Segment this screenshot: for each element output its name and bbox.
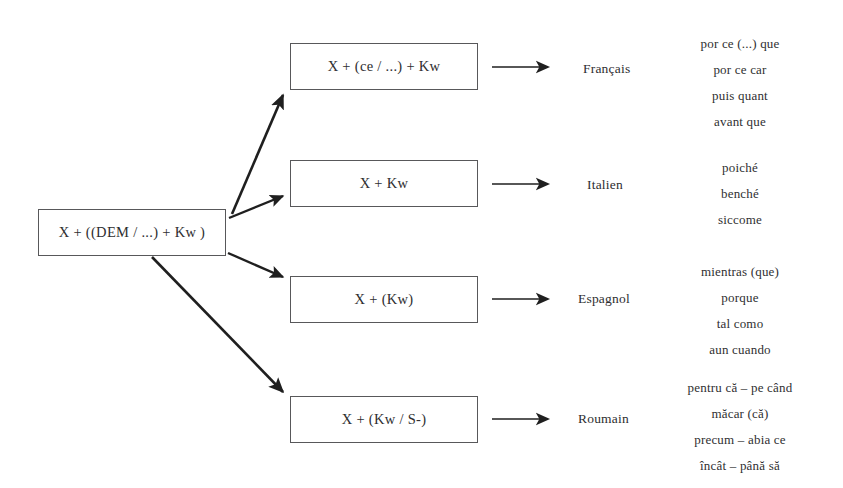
language-label-italien: Italien [587,177,623,193]
example-item: porque [640,285,840,311]
source-node-label: X + ((DEM / ...) + Kw ) [59,224,205,241]
branch-node-roumain: X + (Kw / S-) [290,396,478,443]
example-item: por ce car [640,57,840,83]
example-item: tal como [640,311,840,337]
branch-arrow-francais [232,95,283,214]
example-item: mientras (que) [640,259,840,285]
branch-node-label: X + (ce / ...) + Kw [328,58,441,75]
example-list-italien: poiché benché siccome [640,155,840,233]
branch-node-label: X + (Kw) [355,291,414,308]
branch-node-italien: X + Kw [290,160,478,207]
example-item: por ce (...) que [640,31,840,57]
language-label-francais: Français [583,61,630,77]
example-item: încât – până să [640,453,840,479]
example-item: avant que [640,109,840,135]
example-item: precum – abia ce [640,427,840,453]
example-list-espagnol: mientras (que) porque tal como aun cuand… [640,259,840,363]
example-item: benché [640,181,840,207]
branch-arrow-italien [229,196,283,218]
branch-node-espagnol: X + (Kw) [290,276,478,323]
example-item: măcar (că) [640,401,840,427]
branch-node-label: X + (Kw / S-) [342,411,427,428]
example-item: pentru că – pe când [640,375,840,401]
example-list-roumain: pentru că – pe când măcar (că) precum – … [640,375,840,479]
diagram-canvas: X + ((DEM / ...) + Kw ) X + (ce / ...) +… [0,0,843,488]
example-list-francais: por ce (...) que por ce car puis quant a… [640,31,840,135]
example-item: puis quant [640,83,840,109]
branch-node-label: X + Kw [360,175,409,192]
example-item: poiché [640,155,840,181]
branch-node-francais: X + (ce / ...) + Kw [290,43,478,90]
branch-arrow-roumain [152,257,283,392]
language-label-roumain: Roumain [578,411,629,427]
example-item: aun cuando [640,337,840,363]
source-node: X + ((DEM / ...) + Kw ) [38,209,226,256]
example-item: siccome [640,207,840,233]
branch-arrow-espagnol [228,253,283,277]
language-label-espagnol: Espagnol [578,291,630,307]
